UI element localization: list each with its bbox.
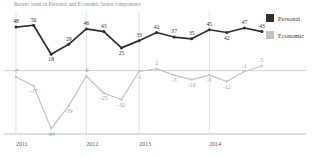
data-label: 5 — [261, 57, 264, 63]
data-point — [261, 30, 264, 33]
x-tick-label: 2013 — [139, 141, 151, 147]
data-point — [120, 98, 122, 100]
data-point — [243, 70, 245, 72]
data-point — [67, 43, 70, 46]
data-point — [32, 85, 34, 87]
data-point — [173, 74, 175, 76]
data-label: 47 — [242, 19, 248, 25]
data-label: 50 — [31, 17, 37, 23]
data-label: -7 — [14, 68, 19, 74]
x-tick-label-group: 2011201220132014 — [16, 141, 221, 147]
data-point — [50, 53, 53, 56]
data-label: 43 — [259, 23, 265, 29]
x-tick-label: 2014 — [209, 141, 221, 147]
data-label: -1 — [137, 74, 142, 80]
data-point — [191, 79, 193, 81]
data-label: 43 — [101, 23, 107, 29]
data-label: 29 — [66, 36, 72, 42]
data-point — [173, 36, 176, 39]
data-label: -10 — [188, 82, 196, 88]
data-point — [138, 70, 140, 72]
data-point — [15, 26, 18, 29]
data-label: 48 — [13, 18, 19, 24]
data-label: -6 — [84, 67, 89, 73]
legend-swatch-economic — [266, 31, 274, 39]
data-point — [85, 27, 88, 30]
data-label: -1 — [242, 63, 247, 69]
data-label: 42 — [154, 24, 160, 30]
data-point — [102, 30, 105, 33]
data-point — [208, 74, 210, 76]
data-label: -5 — [207, 77, 212, 83]
data-label: 42 — [224, 35, 230, 41]
data-label: -64 — [47, 131, 55, 137]
data-point — [120, 46, 123, 49]
data-point — [103, 92, 105, 94]
data-label: 2 — [155, 60, 158, 66]
data-label: 37 — [171, 28, 177, 34]
data-point — [15, 76, 17, 78]
gridline-group — [16, 12, 209, 134]
data-label: -17 — [30, 88, 38, 94]
data-point — [85, 75, 87, 77]
data-point — [155, 31, 158, 34]
x-tick-label: 2011 — [16, 141, 28, 147]
chart-container: Recent trend in Personal and Economic In… — [0, 0, 322, 157]
data-label: 46 — [83, 20, 89, 26]
data-point — [32, 24, 35, 27]
legend-label-economic: Economic — [278, 32, 304, 39]
data-label: -25 — [100, 95, 108, 101]
legend-swatch-personal — [266, 14, 274, 22]
data-point — [190, 37, 193, 40]
data-point — [138, 39, 141, 42]
data-point — [225, 31, 228, 34]
data-label: 33 — [136, 32, 142, 38]
data-label: 45 — [206, 21, 212, 27]
data-point — [50, 127, 52, 129]
data-point — [243, 26, 246, 29]
data-point — [208, 28, 211, 31]
data-point — [226, 80, 228, 82]
data-point — [261, 65, 263, 67]
data-label: -12 — [223, 84, 231, 90]
data-label: 18 — [48, 56, 54, 62]
x-tick-label: 2012 — [86, 141, 98, 147]
data-point — [155, 68, 157, 70]
data-label: 35 — [189, 30, 195, 36]
legend-label-personal: Personal — [278, 15, 300, 22]
legend-item-economic[interactable]: Economic — [266, 31, 304, 39]
legend-item-personal[interactable]: Personal — [266, 14, 304, 22]
data-point — [68, 105, 70, 107]
data-label: 25 — [119, 50, 125, 56]
data-label: -32 — [118, 102, 126, 108]
data-label: -5 — [172, 77, 177, 83]
chart-legend: Personal Economic — [266, 14, 304, 48]
data-label: -39 — [65, 108, 73, 114]
